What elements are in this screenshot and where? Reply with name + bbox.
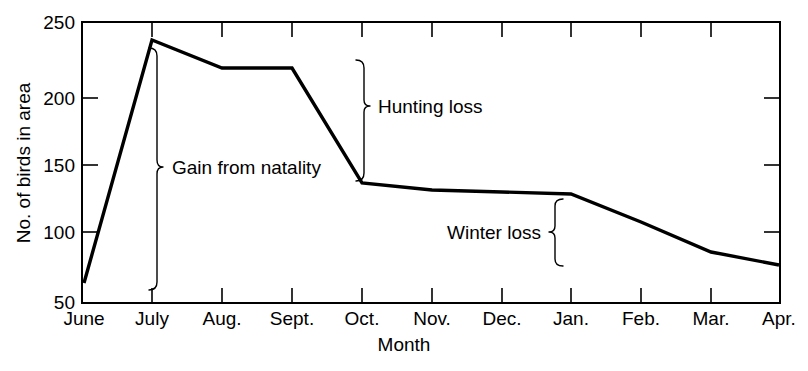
annotation-label-gain-from-natality: Gain from natality [172,157,321,178]
x-tick-label-sept: Sept. [270,308,314,329]
annotation-label-hunting-loss: Hunting loss [378,96,483,117]
gain-from-natality-brace [149,48,163,290]
x-tick-label-june: June [63,308,104,329]
x-axis-ticks-top [152,22,711,37]
y-tick-label-200: 200 [43,88,75,109]
y-axis-ticks-left [82,98,98,232]
y-tick-label-150: 150 [43,155,75,176]
x-axis-ticks-bottom [152,288,711,303]
y-tick-label-100: 100 [43,222,75,243]
x-tick-label-apr: Apr. [762,308,796,329]
winter-loss-brace [549,199,563,266]
figure-container: 250 200 150 100 50 June July Aug. Sept. … [0,0,808,371]
bird-population-line-chart: 250 200 150 100 50 June July Aug. Sept. … [0,0,808,371]
x-tick-label-jan: Jan. [553,308,589,329]
x-tick-label-feb: Feb. [622,308,660,329]
x-tick-label-dec: Dec. [482,308,521,329]
x-tick-label-mar: Mar. [693,308,730,329]
hunting-loss-brace [356,60,370,181]
hunting-loss-brace-path [356,60,370,181]
x-tick-label-nov: Nov. [413,308,451,329]
winter-loss-brace-path [549,199,563,266]
annotation-label-winter-loss: Winter loss [447,222,541,243]
x-tick-label-aug: Aug. [202,308,241,329]
y-axis-title: No. of birds in area [13,82,34,243]
x-axis-title: Month [378,334,431,355]
y-axis-ticks-right [764,98,780,232]
x-tick-label-oct: Oct. [345,308,380,329]
gain-from-natality-brace-path [149,48,163,290]
y-tick-label-250: 250 [43,12,75,33]
x-tick-label-july: July [135,308,169,329]
